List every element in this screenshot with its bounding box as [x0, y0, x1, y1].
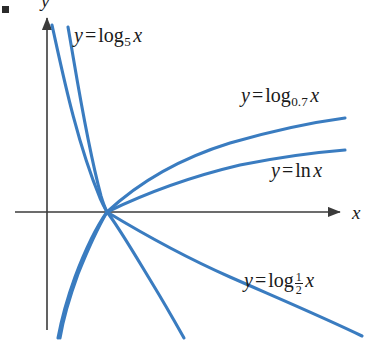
label-log07-lhs: y	[241, 84, 250, 106]
label-log5-argument: x	[131, 24, 142, 46]
x-axis-label: x	[352, 203, 360, 222]
label-log07-equals: =	[250, 84, 265, 106]
curve-label-log-base-0point7: y=log0.7x	[241, 85, 319, 108]
label-log5-equals: =	[83, 24, 98, 46]
label-loghalf-numerator: 1	[295, 271, 303, 283]
label-loghalf-function: log	[268, 269, 294, 291]
label-log07-subscript: 0.7	[291, 94, 308, 109]
label-loghalf-fraction-subscript: 12	[294, 271, 303, 296]
label-loghalf-equals: =	[253, 269, 268, 291]
label-loghalf-denominator: 2	[295, 283, 303, 296]
label-log07-argument: x	[308, 84, 319, 106]
label-loghalf-argument: x	[303, 269, 314, 291]
curve-label-natural-log: y=lnx	[271, 160, 322, 180]
label-log5-function: log	[98, 24, 124, 46]
label-ln-function: ln	[295, 159, 311, 181]
label-log07-function: log	[265, 84, 291, 106]
curve-label-log-base-one-half: y=log12x	[244, 270, 314, 297]
label-ln-argument: x	[311, 159, 322, 181]
label-ln-equals: =	[280, 159, 295, 181]
label-ln-lhs: y	[271, 159, 280, 181]
label-log5-lhs: y	[74, 24, 83, 46]
label-log5-subscript: 5	[124, 34, 131, 49]
y-axis-label: y	[41, 0, 49, 10]
curve-label-log-base-5: y=log5x	[74, 25, 142, 48]
label-loghalf-lhs: y	[244, 269, 253, 291]
logarithm-graph-figure: y=log5x y=log0.7x y=lnx y=log12x x y	[0, 0, 370, 342]
curve-steep-secondary-branch	[60, 27, 107, 338]
